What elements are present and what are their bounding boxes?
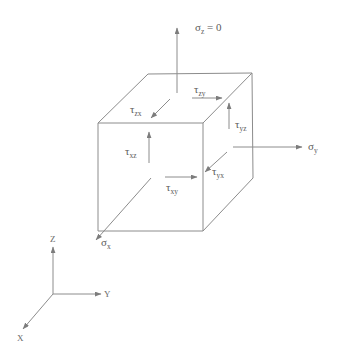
sigma-x-label: σx [101, 236, 111, 251]
y-axis-label: Y [104, 289, 111, 299]
cube [98, 73, 253, 231]
x-axis-label: X [17, 333, 24, 343]
stress-arrows [96, 28, 302, 240]
stress-labels: σz = 0 τzy τzx τyz τxz σy τyx τxy σx [101, 21, 318, 251]
tau-zy-label: τzy [194, 83, 206, 98]
z-axis-label: Z [50, 234, 56, 244]
coordinate-axes: Z Y X [17, 234, 111, 343]
tau-zx-label: τzx [130, 103, 142, 118]
tau-xy-label: τxy [166, 181, 178, 196]
cube-edge-back-right [252, 73, 253, 178]
tau-zx-arrow [151, 99, 170, 118]
stress-element-diagram: σz = 0 τzy τzx τyz τxz σy τyx τxy σx Z [0, 0, 337, 356]
cube-edge-bottom-right [203, 178, 253, 231]
sigma-z-label: σz = 0 [195, 21, 222, 36]
x-axis-arrow [23, 294, 53, 329]
sigma-y-label: σy [308, 140, 318, 155]
tau-xz-label: τxz [125, 145, 137, 160]
cube-edge-top-back [148, 73, 252, 74]
tau-yx-label: τyx [212, 165, 224, 180]
tau-yz-label: τyz [235, 118, 247, 133]
